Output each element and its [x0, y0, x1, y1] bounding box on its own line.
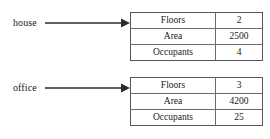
attribute-table-office: Floors 3 Area 4200 Occupants 25 [130, 77, 263, 126]
table-row: Floors 3 [131, 78, 263, 94]
attribute-value: 25 [216, 110, 263, 126]
attribute-value: 2 [216, 13, 263, 29]
attribute-value: 2500 [216, 29, 263, 45]
attribute-name: Area [131, 94, 216, 110]
table-row: Occupants 4 [131, 45, 263, 61]
arrow-right-icon [45, 81, 131, 95]
object-label-office: office [13, 82, 37, 94]
attribute-table-house: Floors 2 Area 2500 Occupants 4 [130, 12, 263, 61]
table-row: Occupants 25 [131, 110, 263, 126]
object-group-house: house Floors 2 Area 2500 Occupants 4 [0, 12, 270, 64]
attribute-name: Floors [131, 78, 216, 94]
object-group-office: office Floors 3 Area 4200 Occupants 25 [0, 77, 270, 129]
object-label-house: house [13, 17, 37, 29]
attribute-name: Occupants [131, 45, 216, 61]
table-row: Area 4200 [131, 94, 263, 110]
arrow-right-icon [45, 16, 131, 30]
table-row: Floors 2 [131, 13, 263, 29]
attribute-value: 4 [216, 45, 263, 61]
attribute-value: 3 [216, 78, 263, 94]
attribute-value: 4200 [216, 94, 263, 110]
table-row: Area 2500 [131, 29, 263, 45]
attribute-name: Floors [131, 13, 216, 29]
attribute-name: Occupants [131, 110, 216, 126]
object-attribute-diagram: house Floors 2 Area 2500 Occupants 4 [0, 0, 270, 139]
attribute-name: Area [131, 29, 216, 45]
